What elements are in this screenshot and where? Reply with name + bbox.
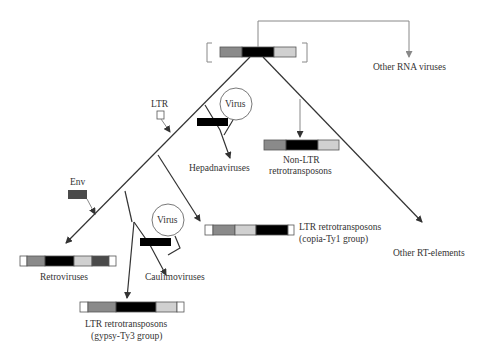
gag-domain	[88, 302, 116, 312]
ltr-domain-right	[288, 225, 294, 235]
branch-other-rt-elements	[263, 57, 422, 222]
rnaseh-domain	[274, 47, 296, 57]
copia-element	[205, 225, 294, 235]
label-gypsy-2: (gypsy-Ty3 group)	[91, 331, 162, 342]
label-retroviruses: Retroviruses	[40, 272, 88, 282]
pol-domain	[116, 302, 156, 312]
rnaseh-domain	[235, 225, 256, 235]
label-other-rt: Other RT-elements	[393, 248, 465, 258]
label-caulimoviruses: Caulimoviruses	[145, 272, 205, 282]
env-box	[68, 190, 87, 199]
pol-domain	[256, 225, 288, 235]
ancestral-element	[207, 43, 307, 62]
env-domain	[92, 256, 109, 266]
ltr-arrow	[161, 119, 170, 132]
label-non-ltr-2: retrotransposons	[269, 166, 332, 176]
ltr-domain	[205, 225, 213, 235]
rnaseh-domain	[156, 302, 177, 312]
rnaseh-domain	[318, 140, 339, 150]
retrovirus-element	[20, 256, 116, 266]
label-gypsy-1: LTR retrotransposons	[85, 319, 168, 329]
gag-domain	[27, 256, 45, 266]
label-other-rna-viruses: Other RNA viruses	[373, 62, 446, 72]
label-virus-2: Virus	[157, 215, 178, 225]
rnaseh-domain	[74, 256, 92, 266]
left-bracket	[207, 43, 212, 62]
branch-gypsy	[127, 222, 134, 298]
gag-domain	[220, 47, 242, 57]
gag-domain	[213, 225, 235, 235]
ltr-domain-right	[177, 302, 184, 312]
retroelement-phylogeny-diagram: Other RNA viruses Non-LTR retrotransposo…	[0, 0, 487, 355]
ltr-domain	[20, 256, 27, 266]
hepadna-pol-domain	[197, 118, 228, 126]
label-non-ltr-1: Non-LTR	[283, 155, 320, 165]
label-hepadnaviruses: Hepadnaviruses	[189, 163, 250, 173]
gypsy-element	[80, 302, 184, 312]
label-copia-1: LTR retrotransposons	[299, 222, 382, 232]
label-copia-2: (copia-Ty1 group)	[299, 234, 368, 245]
label-env: Env	[70, 177, 86, 187]
pol-domain	[242, 47, 274, 57]
non-ltr-element	[264, 140, 339, 150]
gag-domain	[264, 140, 286, 150]
pol-domain	[286, 140, 318, 150]
label-ltr: LTR	[151, 99, 169, 109]
ltr-domain-right	[109, 256, 116, 266]
env-arrow	[87, 199, 95, 214]
caulimo-pol-domain	[140, 238, 171, 246]
branch-split	[125, 191, 132, 222]
ltr-box	[157, 111, 164, 119]
label-virus-1: Virus	[225, 99, 246, 109]
right-bracket	[302, 43, 307, 62]
pol-domain	[45, 256, 74, 266]
ltr-domain	[80, 302, 88, 312]
